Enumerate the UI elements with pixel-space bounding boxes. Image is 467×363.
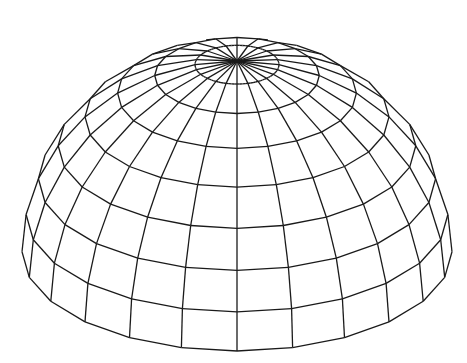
latitude-ring-segment [196,39,216,43]
latitude-ring-segment [313,167,345,178]
latitude-ring-segment [258,48,260,49]
meridian-segment [181,309,182,348]
latitude-ring-segment [237,309,292,312]
latitude-ring-segment [308,85,316,94]
latitude-ring-segment [206,77,208,78]
latitude-ring-segment [196,68,197,69]
latitude-ring-segment [278,102,295,108]
latitude-ring-segment [263,49,265,50]
latitude-ring-segment [326,204,363,217]
meridian-segment [166,74,201,94]
meridian-segment [191,185,198,226]
meridian-segment [155,65,195,76]
latitude-ring-segment [195,61,196,62]
latitude-ring-segment [420,240,441,264]
latitude-ring-segment [85,322,130,338]
meridian-segment [248,83,258,112]
latitude-ring-segment [155,76,158,86]
latitude-ring-segment [273,55,274,56]
meridian-segment [65,187,82,225]
meridian-segment [97,204,111,244]
latitude-ring-segment [199,73,200,74]
latitude-ring-segment [267,77,269,78]
latitude-ring-segment [345,152,369,167]
meridian-segment [216,39,226,46]
meridian-segment [409,225,420,264]
latitude-ring-segment [195,67,196,68]
latitude-ring-segment [64,167,82,187]
latitude-ring-segment [54,263,88,283]
meridian-segment [345,167,364,205]
meridian-segment [278,70,317,86]
latitude-ring-segment [204,52,206,53]
latitude-ring-segment [275,72,276,73]
meridian-segment [45,167,64,202]
latitude-ring-segment [90,135,105,152]
latitude-ring-segment [85,117,90,135]
meridian-segment [248,39,258,46]
dome-lines [22,38,452,352]
latitude-ring-segment [277,58,278,59]
meridian-segment [279,65,319,76]
latitude-ring-segment [342,283,386,298]
latitude-ring-segment [214,48,216,49]
meridian-segment [369,152,392,187]
latitude-ring-segment [88,283,132,298]
latitude-ring-segment [166,95,179,103]
latitude-ring-segment [384,117,389,135]
latitude-ring-segment [197,58,198,59]
meridian-segment [161,141,177,178]
latitude-ring-segment [270,75,272,76]
dome-diagram [0,0,467,363]
latitude-ring-segment [51,301,85,322]
meridian-segment [342,299,344,338]
meridian-segment [295,102,321,132]
latitude-ring-segment [45,203,65,225]
latitude-ring-segment [216,47,218,48]
meridian-segment [158,60,197,66]
meridian-segment [322,132,345,166]
latitude-ring-segment [134,121,153,132]
meridian-segment [313,178,326,218]
latitude-ring-segment [237,112,258,113]
latitude-ring-segment [182,309,237,312]
meridian-segment [82,152,105,187]
latitude-ring-segment [216,38,237,39]
latitude-ring-segment [197,71,198,72]
meridian-segment [436,179,448,215]
meridian-segment [130,299,132,338]
meridian-segment [273,74,308,94]
latitude-ring-segment [263,79,265,80]
latitude-ring-segment [29,277,51,301]
latitude-ring-segment [276,71,277,72]
latitude-ring-segment [276,178,313,185]
latitude-ring-segment [278,68,279,69]
meridian-segment [340,66,368,82]
meridian-segment [258,43,278,48]
latitude-ring-segment [258,108,278,112]
latitude-ring-segment [138,258,186,267]
meridian-segment [448,215,452,252]
latitude-ring-segment [216,81,218,82]
latitude-ring-segment [214,81,216,82]
meridian-segment [273,55,308,57]
latitude-ring-segment [177,141,206,147]
latitude-ring-segment [278,67,279,68]
latitude-ring-segment [260,49,262,50]
latitude-ring-segment [429,155,436,179]
latitude-ring-segment [153,132,178,141]
latitude-ring-segment [158,85,166,94]
latitude-ring-segment [148,217,191,225]
meridian-segment [268,146,276,184]
latitude-ring-segment [272,54,273,55]
meridian-segment [340,121,368,152]
latitude-ring-segment [317,76,320,86]
latitude-ring-segment [206,146,237,148]
meridian-segment [148,178,161,218]
latitude-ring-segment [130,338,182,348]
latitude-ring-segment [265,78,267,79]
latitude-ring-segment [352,93,356,107]
meridian-segment [278,108,297,140]
latitude-ring-segment [202,53,204,54]
latitude-ring-segment [134,54,153,66]
